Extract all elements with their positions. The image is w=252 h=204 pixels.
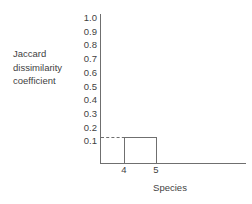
dendrogram-figure: Jaccard dissimilarity coefficient 1.0 0.… xyxy=(0,0,252,204)
x-tick-label-5: 5 xyxy=(143,164,169,176)
x-axis-title: Species xyxy=(125,182,215,194)
x-tick-label-4: 4 xyxy=(111,164,137,176)
x-axis-tick-labels: 4 5 xyxy=(0,164,252,178)
